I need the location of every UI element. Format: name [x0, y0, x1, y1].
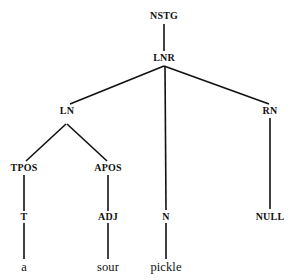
edge-ln-apos: [67, 124, 107, 161]
node-label-nstg: NSTG: [150, 11, 178, 21]
node-label-null: NULL: [256, 212, 285, 222]
terminal-word-word_a: a: [21, 261, 27, 274]
parse-tree-edges-canvas: [0, 0, 295, 280]
parse-tree-figure: NSTGLNRLNRNTPOSAPOSTADJNNULLasourpickle: [0, 0, 295, 280]
node-label-apos: APOS: [94, 163, 121, 173]
node-label-adj: ADJ: [98, 212, 118, 222]
edge-lnr-ln: [70, 66, 164, 104]
node-label-lnr: LNR: [153, 53, 175, 63]
edge-lnr-rn: [164, 66, 269, 104]
terminal-word-word_pickle: pickle: [150, 261, 181, 274]
node-label-t: T: [21, 212, 28, 222]
node-label-rn: RN: [263, 106, 278, 116]
terminal-word-word_sour: sour: [97, 261, 119, 274]
node-label-ln: LN: [60, 106, 74, 116]
node-label-tpos: TPOS: [11, 163, 38, 173]
node-label-n: N: [162, 212, 169, 222]
edge-lnr-n: [165, 66, 166, 210]
edge-ln-tpos: [26, 124, 66, 161]
edge-group: [24, 24, 270, 259]
